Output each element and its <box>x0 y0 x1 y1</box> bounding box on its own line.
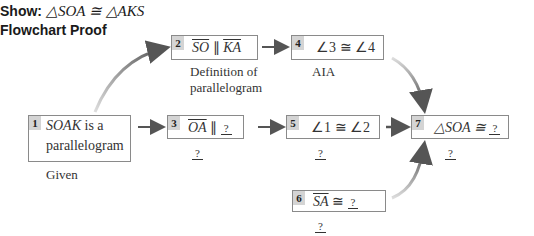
step-1-reason: Given <box>46 167 78 183</box>
step-number: 4 <box>292 36 304 50</box>
step-4-reason: AIA <box>312 64 335 80</box>
step-1-box: 1 SOAK is a parallelogram <box>28 115 131 162</box>
step-4-statement: ∠3 ≅ ∠4 <box>316 40 375 56</box>
step-2-reason: Definition of parallelogram <box>190 64 262 96</box>
answer-blank[interactable]: ? <box>221 122 232 135</box>
step-number: 6 <box>293 191 305 205</box>
step-number: 7 <box>412 116 424 130</box>
step-5-box: 5 ∠1 ≅ ∠2 <box>286 115 380 139</box>
answer-blank[interactable]: ? <box>489 122 500 135</box>
arrow-4-to-7 <box>392 58 424 108</box>
step-2-statement: SO ∥ KA <box>192 40 241 56</box>
step-6-reason: ? <box>315 218 326 234</box>
reason-blank[interactable]: ? <box>315 220 326 233</box>
step-5-reason: ? <box>315 145 326 161</box>
step-number: 5 <box>287 116 299 130</box>
reason-blank[interactable]: ? <box>315 147 326 160</box>
step-3-statement: OA ∥ ? <box>188 120 232 136</box>
step-1-statement-line2: parallelogram <box>46 138 124 154</box>
step-1-statement: SOAK is a <box>46 118 104 134</box>
step-6-statement: SA ≅ ? <box>313 194 358 210</box>
step-4-box: 4 ∠3 ≅ ∠4 <box>291 35 384 60</box>
step-6-box: 6 SA ≅ ? <box>292 190 386 212</box>
step-3-reason: ? <box>192 145 203 161</box>
step-2-box: 2 SO ∥ KA <box>171 35 258 60</box>
answer-blank[interactable]: ? <box>348 196 359 209</box>
reason-blank[interactable]: ? <box>445 147 456 160</box>
step-number: 1 <box>29 116 41 130</box>
step-3-box: 3 OA ∥ ? <box>167 115 244 139</box>
step-number: 2 <box>172 36 184 50</box>
step-number: 3 <box>168 116 180 130</box>
step-5-statement: ∠1 ≅ ∠2 <box>311 120 370 136</box>
step-7-reason: ? <box>445 145 456 161</box>
arrow-1-to-2 <box>95 48 165 112</box>
quad-name: SOAK <box>46 118 81 133</box>
arrow-6-to-7 <box>392 146 424 198</box>
reason-blank[interactable]: ? <box>192 147 203 160</box>
step-7-statement: △SOA ≅ ? <box>434 120 500 136</box>
step-7-box: 7 △SOA ≅ ? <box>411 115 509 139</box>
